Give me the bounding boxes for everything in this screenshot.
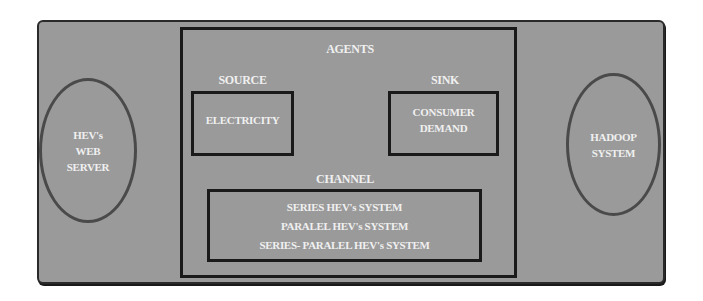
channel-item: SERIES HEV's SYSTEM [210, 198, 479, 217]
source-title: SOURCE [195, 73, 290, 88]
sink-box: CONSUMER DEMAND [388, 91, 499, 156]
source-box: ELECTRICITY [191, 91, 294, 156]
hadoop-system-node: HADOOP SYSTEM [566, 73, 661, 216]
sink-content: CONSUMER DEMAND [391, 104, 496, 136]
channel-item: SERIES- PARALEL HEV's SYSTEM [210, 236, 479, 255]
channel-items: SERIES HEV's SYSTEM PARALEL HEV's SYSTEM… [210, 198, 479, 255]
hev-web-server-node: HEV's WEB SERVER [39, 78, 137, 223]
channel-box: SERIES HEV's SYSTEM PARALEL HEV's SYSTEM… [207, 189, 482, 262]
hadoop-system-label: HADOOP SYSTEM [590, 129, 636, 161]
agents-title: AGENTS [300, 42, 400, 57]
channel-item: PARALEL HEV's SYSTEM [210, 217, 479, 236]
sink-title: SINK [405, 73, 485, 88]
channel-title: CHANNEL [295, 172, 395, 187]
hev-web-server-label: HEV's WEB SERVER [67, 127, 109, 175]
source-content: ELECTRICITY [194, 112, 291, 128]
